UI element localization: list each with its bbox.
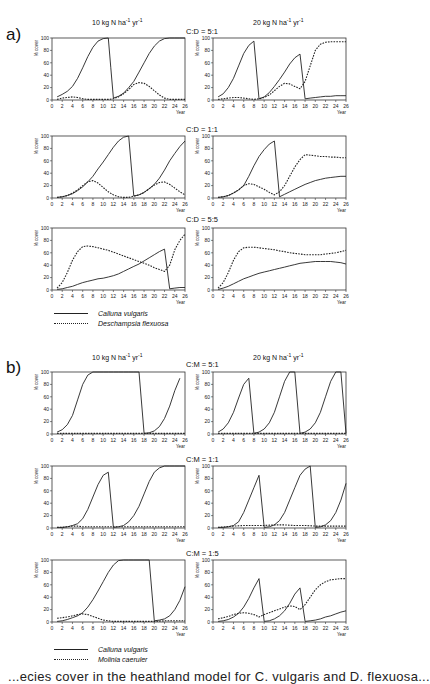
x-tick-label: 12 — [272, 531, 278, 537]
x-tick-label: 24 — [172, 625, 178, 631]
x-tick-label: 4 — [71, 293, 74, 299]
x-tick-label: 24 — [333, 293, 339, 299]
y-tick-label: 100 — [202, 133, 211, 139]
y-tick-label: 60 — [204, 60, 210, 66]
x-tick-label: 16 — [131, 293, 137, 299]
x-tick-label: 20 — [313, 531, 319, 537]
x-tick-label: 18 — [302, 531, 308, 537]
legend-label: Calluna vulgaris — [98, 646, 148, 653]
y-axis-label: % cover — [34, 138, 39, 155]
plot-frame — [52, 466, 185, 528]
x-tick-label: 14 — [121, 103, 127, 109]
legend-item-calluna: Calluna vulgaris — [54, 308, 168, 318]
x-tick-label: 10 — [261, 293, 267, 299]
series-line-grass — [218, 42, 346, 100]
x-tick-label: 6 — [81, 625, 84, 631]
x-tick-label: 20 — [313, 103, 319, 109]
x-axis-label: Year — [337, 300, 347, 305]
x-tick-label: 18 — [302, 103, 308, 109]
y-tick-label: 40 — [43, 406, 49, 412]
plot-frame — [213, 38, 346, 100]
x-tick-label: 6 — [81, 531, 84, 537]
y-tick-label: 60 — [43, 488, 49, 494]
x-tick-label: 4 — [71, 531, 74, 537]
legend-item-molinia: Molinia caeruler — [54, 654, 148, 664]
y-tick-label: 40 — [43, 170, 49, 176]
x-tick-label: 14 — [282, 103, 288, 109]
legend-dotted-swatch — [54, 659, 88, 660]
y-axis-label: % cover — [195, 468, 200, 485]
x-tick-label: 20 — [313, 201, 319, 207]
x-tick-label: 22 — [323, 103, 329, 109]
x-tick-label: 24 — [172, 103, 178, 109]
x-tick-label: 6 — [242, 103, 245, 109]
x-tick-label: 22 — [323, 293, 329, 299]
x-tick-label: 22 — [162, 625, 168, 631]
series-line-grass — [218, 155, 346, 198]
x-tick-label: 0 — [212, 531, 215, 537]
y-tick-label: 0 — [46, 97, 49, 103]
x-tick-label: 2 — [61, 293, 64, 299]
y-tick-label: 20 — [204, 606, 210, 612]
x-tick-label: 24 — [333, 103, 339, 109]
x-tick-label: 14 — [121, 531, 127, 537]
chart-1: 02040608010002468101214161820222426Year%… — [195, 35, 349, 115]
x-tick-label: 0 — [51, 437, 54, 443]
y-tick-label: 0 — [207, 525, 210, 531]
y-tick-label: 80 — [43, 381, 49, 387]
x-tick-label: 0 — [212, 293, 215, 299]
x-tick-label: 8 — [253, 201, 256, 207]
y-tick-label: 60 — [43, 582, 49, 588]
legend-a: Calluna vulgaris Deschampsia flexuosa — [54, 308, 168, 328]
x-tick-label: 18 — [302, 625, 308, 631]
x-tick-label: 2 — [222, 293, 225, 299]
x-tick-label: 14 — [282, 293, 288, 299]
x-tick-label: 12 — [111, 293, 117, 299]
x-tick-label: 16 — [292, 293, 298, 299]
x-tick-label: 22 — [162, 437, 168, 443]
x-tick-label: 10 — [261, 201, 267, 207]
x-axis-label: Year — [337, 110, 347, 115]
series-line-grass — [57, 181, 185, 198]
x-tick-label: 2 — [61, 437, 64, 443]
series-line-calluna — [57, 38, 185, 98]
x-tick-label: 4 — [232, 437, 235, 443]
y-tick-label: 40 — [43, 72, 49, 78]
y-tick-label: 0 — [46, 195, 49, 201]
x-tick-label: 6 — [81, 437, 84, 443]
legend-item-calluna: Calluna vulgaris — [54, 644, 148, 654]
y-tick-label: 60 — [204, 158, 210, 164]
y-tick-label: 0 — [207, 97, 210, 103]
y-axis-label: % cover — [195, 40, 200, 57]
x-tick-label: 0 — [51, 103, 54, 109]
y-tick-label: 20 — [204, 418, 210, 424]
x-tick-label: 26 — [182, 625, 188, 631]
series-line-calluna — [57, 560, 185, 621]
x-tick-label: 22 — [323, 201, 329, 207]
x-tick-label: 16 — [292, 437, 298, 443]
x-tick-label: 22 — [323, 437, 329, 443]
chart-10: 02040608010002468101214161820222426Year%… — [34, 557, 188, 637]
x-tick-label: 26 — [343, 437, 349, 443]
x-tick-label: 18 — [302, 437, 308, 443]
y-tick-label: 20 — [43, 84, 49, 90]
y-axis-label: % cover — [34, 230, 39, 247]
x-tick-label: 18 — [141, 437, 147, 443]
legend-label: Calluna vulgaris — [98, 310, 148, 317]
x-tick-label: 18 — [302, 201, 308, 207]
y-tick-label: 20 — [43, 606, 49, 612]
series-line-calluna — [218, 41, 346, 99]
x-tick-label: 2 — [222, 103, 225, 109]
x-tick-label: 24 — [333, 201, 339, 207]
x-tick-label: 2 — [222, 531, 225, 537]
x-tick-label: 12 — [111, 531, 117, 537]
legend-dotted-swatch — [54, 323, 88, 324]
x-tick-label: 2 — [222, 201, 225, 207]
x-tick-label: 2 — [222, 437, 225, 443]
x-tick-label: 14 — [282, 625, 288, 631]
series-line-grass — [218, 525, 346, 528]
x-axis-label: Year — [176, 538, 186, 543]
x-tick-label: 12 — [272, 201, 278, 207]
x-tick-label: 2 — [61, 201, 64, 207]
x-tick-label: 24 — [172, 437, 178, 443]
